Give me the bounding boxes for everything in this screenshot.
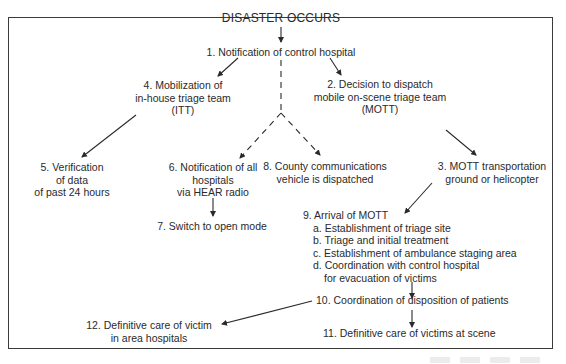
- node-6-line: 6. Notification of all: [169, 161, 258, 174]
- node-10-line: 10. Coordination of disposition of patie…: [316, 294, 509, 307]
- node-12-definitive-care-area-hospitals: 12. Definitive care of victim in area ho…: [86, 319, 211, 344]
- node-4-line: 4. Mobilization of: [135, 79, 231, 92]
- node-9-item-a: a. Establishment of triage site: [303, 222, 517, 235]
- node-5-line: of data: [34, 174, 109, 187]
- node-7-switch-open-mode: 7. Switch to open mode: [157, 220, 267, 233]
- node-9-arrival-mott: 9. Arrival of MOTT a. Establishment of t…: [303, 209, 517, 285]
- node-2-decision-dispatch-mott: 2. Decision to dispatch mobile on-scene …: [314, 78, 447, 116]
- node-1-line: 1. Notification of control hospital: [207, 46, 356, 59]
- node-6-notification-all-hospitals: 6. Notification of all hospitals via HEA…: [169, 161, 258, 199]
- node-12-line: 12. Definitive care of victim: [86, 319, 211, 332]
- node-12-line: in area hospitals: [86, 332, 211, 345]
- node-2-line: 2. Decision to dispatch: [314, 78, 447, 91]
- node-4-mobilization-itt: 4. Mobilization of in-house triage team …: [135, 79, 231, 117]
- title-disaster-occurs: DISASTER OCCURS: [222, 12, 340, 25]
- cropped-caption-residue: [430, 357, 540, 363]
- node-9-item-c: c. Establishment of ambulance staging ar…: [303, 247, 517, 260]
- node-10-coordination-disposition: 10. Coordination of disposition of patie…: [316, 294, 509, 307]
- node-5-line: 5. Verification: [34, 161, 109, 174]
- node-7-line: 7. Switch to open mode: [157, 220, 267, 233]
- node-11-line: 11. Definitive care of victims at scene: [323, 327, 496, 340]
- node-1-notification-control-hospital: 1. Notification of control hospital: [207, 46, 356, 59]
- node-9-item-d: d. Coordination with control hospital: [303, 259, 517, 272]
- node-8-line: vehicle is dispatched: [263, 173, 387, 186]
- node-8-line: 8. County communications: [263, 160, 387, 173]
- node-3-line: 3. MOTT transportation: [438, 160, 546, 173]
- node-9-title: 9. Arrival of MOTT: [303, 209, 517, 222]
- node-5-verification-data: 5. Verification of data of past 24 hours: [34, 161, 109, 199]
- node-8-county-communications-vehicle: 8. County communications vehicle is disp…: [263, 160, 387, 185]
- node-4-line: in-house triage team: [135, 92, 231, 105]
- node-3-line: ground or helicopter: [438, 173, 546, 186]
- node-9-item-d-cont: for evacuation of victims: [303, 272, 517, 285]
- node-4-line: (ITT): [135, 104, 231, 117]
- node-2-line: (MOTT): [314, 103, 447, 116]
- node-2-line: mobile on-scene triage team: [314, 91, 447, 104]
- node-6-line: via HEAR radio: [169, 186, 258, 199]
- node-9-item-b: b. Triage and initial treatment: [303, 234, 517, 247]
- node-6-line: hospitals: [169, 174, 258, 187]
- node-3-mott-transportation: 3. MOTT transportation ground or helicop…: [438, 160, 546, 185]
- node-5-line: of past 24 hours: [34, 186, 109, 199]
- node-11-definitive-care-at-scene: 11. Definitive care of victims at scene: [323, 327, 496, 340]
